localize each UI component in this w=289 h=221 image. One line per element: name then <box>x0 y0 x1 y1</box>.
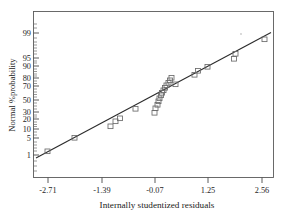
normal-probability-plot: 99 95 90 80 70 50 30 20 10 5 1 -2.71 -1.… <box>0 0 289 221</box>
y-tick-labels: 99 95 90 80 70 50 30 20 10 5 1 <box>23 29 31 160</box>
x-tick-label: -1.39 <box>93 186 110 195</box>
data-point <box>232 57 237 62</box>
x-axis-ticks <box>48 178 262 184</box>
data-point <box>152 111 157 116</box>
data-point <box>262 37 267 42</box>
y-tick-label: 50 <box>23 96 31 105</box>
x-tick-label: -2.71 <box>39 186 56 195</box>
data-point <box>108 124 113 129</box>
data-points <box>45 37 267 154</box>
plot-frame <box>34 12 274 178</box>
y-tick-label: 1 <box>27 151 31 160</box>
y-tick-label: 10 <box>23 125 31 134</box>
y-tick-label: 20 <box>23 115 31 124</box>
y-tick-label: 90 <box>23 62 31 71</box>
print-speck <box>240 33 242 35</box>
y-tick-label: 70 <box>23 82 31 91</box>
plot-svg: 99 95 90 80 70 50 30 20 10 5 1 -2.71 -1.… <box>0 0 289 221</box>
x-tick-labels: -2.71 -1.39 -0.07 1.25 2.56 <box>39 186 269 195</box>
data-point <box>133 107 138 112</box>
x-tick-label: -0.07 <box>146 186 163 195</box>
x-tick-label: 2.56 <box>255 186 270 195</box>
y-axis-label: Normal %probability <box>7 58 17 132</box>
y-axis-minor-ticks <box>34 24 38 171</box>
x-tick-label: 1.25 <box>201 186 216 195</box>
y-tick-label: 5 <box>27 134 31 143</box>
x-axis-label: Internally studentized residuals <box>100 200 215 210</box>
y-tick-label: 99 <box>23 29 31 38</box>
